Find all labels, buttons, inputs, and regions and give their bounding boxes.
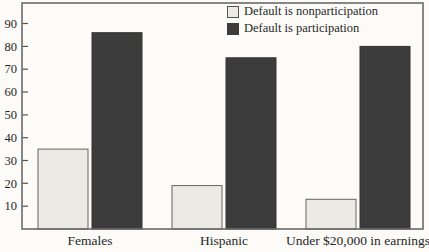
legend-swatch-participation-icon (227, 23, 239, 35)
bar-nonparticipation-3 (306, 199, 356, 229)
legend-item-nonparticipation: Default is nonparticipation (227, 5, 378, 18)
bar-participation-2 (226, 58, 276, 229)
y-tick-label-70: 70 (5, 62, 18, 76)
y-tick-label-10: 10 (5, 199, 18, 213)
y-tick-label-80: 80 (5, 40, 18, 54)
x-category-label-3: Under $20,000 in earnings (286, 233, 429, 248)
legend-label-nonparticipation: Default is nonparticipation (244, 5, 378, 18)
legend: Default is nonparticipation Default is p… (227, 5, 378, 35)
legend-item-participation: Default is participation (227, 22, 378, 35)
y-tick-label-60: 60 (5, 85, 18, 99)
bar-participation-3 (360, 46, 410, 229)
bar-nonparticipation-2 (172, 186, 222, 229)
bar-chart-figure: FemalesHispanicUnder $20,000 in earnings… (0, 0, 429, 252)
y-tick-label-40: 40 (5, 131, 18, 145)
y-tick-label-30: 30 (5, 154, 18, 168)
y-tick-label-20: 20 (5, 177, 18, 191)
x-category-label-1: Females (68, 233, 113, 248)
bar-participation-1 (92, 33, 142, 229)
y-tick-label-90: 90 (5, 17, 18, 31)
bar-chart: FemalesHispanicUnder $20,000 in earnings… (0, 0, 429, 252)
x-category-label-2: Hispanic (200, 233, 248, 248)
bar-nonparticipation-1 (38, 149, 88, 229)
y-tick-label-50: 50 (5, 108, 18, 122)
legend-swatch-nonparticipation-icon (227, 6, 239, 18)
legend-label-participation: Default is participation (244, 22, 359, 35)
